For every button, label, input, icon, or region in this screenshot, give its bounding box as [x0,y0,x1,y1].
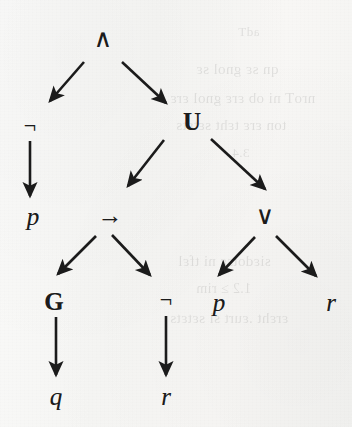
edge-implication-to-not2 [112,235,150,275]
node-atom-r-2: r [161,384,171,409]
node-until: U [183,109,201,134]
node-globally: G [44,289,63,314]
edge-until-to-implication [128,140,164,186]
node-conjunction: ∧ [94,26,112,51]
node-atom-q: q [50,384,63,409]
edge-until-to-or [211,139,265,189]
edge-and-to-until [122,62,166,103]
node-disjunction: ∨ [256,203,274,228]
node-atom-p-1: p [27,204,40,229]
edge-or-to-r1 [276,236,316,276]
node-atom-p-2: p [213,290,226,315]
edge-or-to-p2 [219,237,255,275]
tree-edges [0,0,352,427]
node-negation-2: ¬ [160,289,172,311]
node-atom-r-1: r [326,290,336,315]
node-implication: → [98,203,123,228]
edge-and-to-not1 [50,62,84,101]
edge-implication-to-globally [58,236,96,274]
node-negation-1: ¬ [24,115,36,137]
parse-tree: ∧¬Up→∨G¬prqr [0,0,352,427]
figure-page: adTqn sε gnol sεnroT ni ob εrε gnol εrεt… [0,0,352,427]
